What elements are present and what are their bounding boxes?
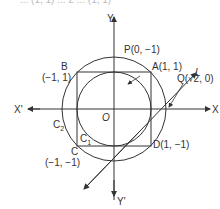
diagram-canvas: ... (1, 1) ... 2 ... (1, 1) Y Y' X X' O … — [0, 0, 220, 209]
tangent-line-l-lower-arrow — [84, 131, 140, 189]
line-l-label: L — [195, 67, 201, 78]
point-d-label: D(1, −1) — [153, 139, 189, 150]
y-neg-axis-label: Y' — [117, 196, 126, 207]
point-p-label: P(0, −1) — [124, 44, 160, 55]
point-c-coords: (−1, −1) — [45, 157, 80, 168]
cropped-top-text: ... (1, 1) ... 2 ... (1, 1) — [20, 0, 111, 5]
p-pointer-arrow — [128, 76, 140, 84]
x-axis-label: X — [212, 104, 219, 115]
y-axis-label: Y — [107, 13, 114, 24]
curve-c2-label: C2 — [53, 119, 64, 132]
point-b-label: B — [61, 61, 68, 72]
point-c-label: C — [71, 146, 78, 157]
point-b-coords: (−1, 1) — [42, 72, 71, 83]
origin-label: O — [102, 112, 110, 123]
x-neg-axis-label: X' — [14, 104, 23, 115]
q-pointer-arrow — [169, 84, 183, 107]
point-a-label: A(1, 1) — [152, 61, 182, 72]
curve-c1-label: C1 — [80, 133, 91, 146]
